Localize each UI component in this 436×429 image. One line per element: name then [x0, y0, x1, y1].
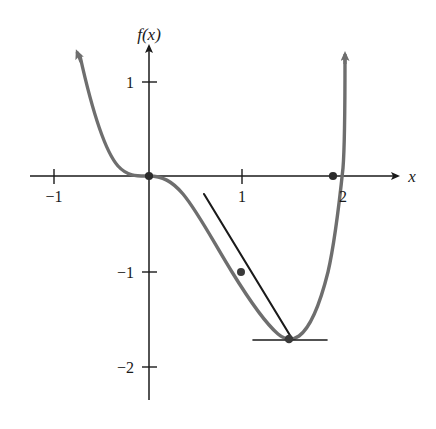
y-tick-label-1: 1 — [126, 74, 134, 91]
y-tick-label-minus-2: −2 — [117, 359, 134, 376]
plot-background — [0, 0, 436, 429]
point-on-line — [237, 268, 245, 276]
coordinate-plot: −1 1 2 1 −1 −2 f(x) x — [0, 0, 436, 429]
minimum-point — [285, 335, 294, 344]
graph-figure: −1 1 2 1 −1 −2 f(x) x — [0, 0, 436, 429]
root-point — [329, 172, 337, 180]
y-axis-label: f(x) — [137, 25, 161, 44]
y-tick-label-minus-1: −1 — [117, 264, 134, 281]
x-tick-label-1: 1 — [238, 188, 246, 205]
x-axis-label: x — [407, 167, 416, 186]
x-tick-label-2: 2 — [339, 188, 347, 205]
origin-point — [145, 172, 153, 180]
x-tick-label-minus-1: −1 — [45, 188, 62, 205]
